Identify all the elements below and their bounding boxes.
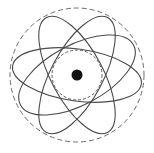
atom-diagram <box>0 0 154 153</box>
nucleus-dot <box>72 70 83 81</box>
atom-diagram-canvas <box>0 0 154 153</box>
